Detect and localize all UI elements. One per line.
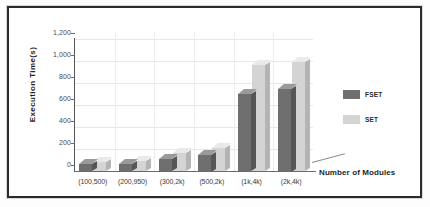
bar-fset [159,159,172,171]
gridline-vertical [154,32,155,171]
y-axis-tick-label: 200 [31,139,71,146]
gridline-vertical [115,32,116,171]
plot-area [75,32,313,171]
legend-label: FSET [365,91,382,98]
bar-fset [198,155,211,172]
bar-side [305,59,310,171]
bar-group [278,32,305,171]
bar-face [119,164,132,171]
bar-face [159,159,172,171]
gridline-vertical [273,32,274,171]
y-axis-title: Execution Time(s) [28,30,37,140]
bar-group [159,32,186,171]
y-axis-tick-label: 1,200 [31,29,71,36]
bar-side [211,151,216,171]
x-axis-tick-label: (2k,4k) [271,178,311,185]
x-axis-tick-labels: (100,500)(200,950)(300,2k)(500,2k)(1k,4k… [71,178,321,192]
legend-swatch-set [343,115,360,124]
bar-fset [79,164,92,171]
x-axis-line [74,171,316,172]
bar-face [278,89,291,172]
y-axis-line [74,38,75,172]
bar-group [79,32,106,171]
chart-figure: 02004006008001,0001,200 Execution Time(s… [0,0,430,207]
plot-floor-edge [312,153,345,163]
y-axis-tick [71,143,75,144]
bar-fset [278,89,291,172]
y-axis-tick-label: 800 [31,73,71,80]
figure-border: 02004006008001,0001,200 Execution Time(s… [7,6,422,198]
legend-swatch-fset [343,90,360,99]
bar-side [265,62,270,171]
bar-group [198,32,225,171]
bar-face [198,155,211,172]
bar-side [251,91,256,171]
y-axis-tick [71,165,75,166]
bar-side [225,145,230,171]
legend-item: FSET [343,86,413,102]
x-axis-title: Number of Modules [319,168,395,177]
gridline-vertical [194,32,195,171]
y-axis-tick [71,33,75,34]
x-axis-tick-label: (300,2k) [152,178,192,185]
y-axis-tick-label: 0 [31,161,71,168]
bar-group [119,32,146,171]
chart-legend: FSETSET [343,86,413,136]
legend-label: SET [365,116,378,123]
x-axis-tick-label: (200,950) [113,178,153,185]
y-axis-tick-label: 1,000 [31,51,71,58]
bar-side [186,150,191,171]
y-axis-tick [71,55,75,56]
y-axis-tick [71,121,75,122]
x-axis-tick-label: (500,2k) [192,178,232,185]
bar-group [238,32,265,171]
bar-fset [238,94,251,171]
y-axis-tick [71,99,75,100]
legend-item: SET [343,111,413,127]
y-axis-tick [71,77,75,78]
bar-fset [119,164,132,171]
bar-side [291,85,296,171]
x-axis-tick-label: (100,500) [73,178,113,185]
y-axis-tick-label: 400 [31,117,71,124]
y-axis-tick-label: 600 [31,95,71,102]
bar-face [238,94,251,171]
x-axis-tick-label: (1k,4k) [232,178,272,185]
bar-face [79,164,92,171]
gridline-vertical [234,32,235,171]
